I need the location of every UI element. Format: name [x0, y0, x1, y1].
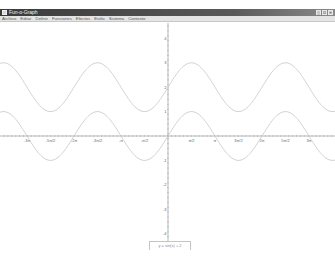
- app-icon: [2, 10, 7, 15]
- top-strip: [0, 0, 335, 9]
- menu-funciones[interactable]: Funciones: [52, 16, 72, 22]
- window-controls: _ □ ×: [316, 10, 333, 15]
- y-tick-label: -3: [163, 207, 167, 212]
- y-tick-label: 4: [164, 36, 167, 41]
- title-bar: Fun-o-Graph _ □ ×: [0, 9, 335, 16]
- graph-canvas[interactable]: -3π-5π/2-2π-3π/2-π-π/2π/2π3π/22π5π/23π43…: [0, 23, 335, 256]
- x-tick-label: -3π/2: [93, 138, 103, 143]
- close-button[interactable]: ×: [328, 10, 333, 15]
- x-tick-label: π: [214, 138, 217, 143]
- menu-definir[interactable]: Definir: [36, 16, 48, 22]
- menu-contexto[interactable]: Contexto: [128, 16, 145, 22]
- x-tick-label: π/2: [188, 138, 195, 143]
- y-tick-label: 3: [164, 60, 167, 65]
- x-tick-label: -5π/2: [46, 138, 56, 143]
- menu-archivo[interactable]: Archivo: [2, 16, 16, 22]
- menu-editar[interactable]: Editar: [20, 16, 31, 22]
- maximize-button[interactable]: □: [322, 10, 327, 15]
- x-tick-label: -π/2: [141, 138, 149, 143]
- menu-estilo[interactable]: Estilo: [94, 16, 105, 22]
- minimize-button[interactable]: _: [316, 10, 321, 15]
- x-tick-label: 5π/2: [281, 138, 290, 143]
- y-tick-label: -2: [163, 182, 167, 187]
- menu-efectos[interactable]: Efectos: [76, 16, 90, 22]
- y-tick-label: -4: [163, 231, 167, 236]
- y-tick-label: 1: [164, 109, 167, 114]
- x-tick-label: -2π: [71, 138, 78, 143]
- function-input[interactable]: y = sin(x) + 2: [149, 241, 191, 250]
- y-tick-label: -1: [163, 158, 167, 163]
- menu-sistema[interactable]: Sistema: [109, 16, 125, 22]
- menu-bar: Archivo Editar Definir Funciones Efectos…: [0, 16, 335, 22]
- graph-svg: -3π-5π/2-2π-3π/2-π-π/2π/2π3π/22π5π/23π43…: [0, 23, 335, 256]
- x-tick-label: 3π/2: [234, 138, 243, 143]
